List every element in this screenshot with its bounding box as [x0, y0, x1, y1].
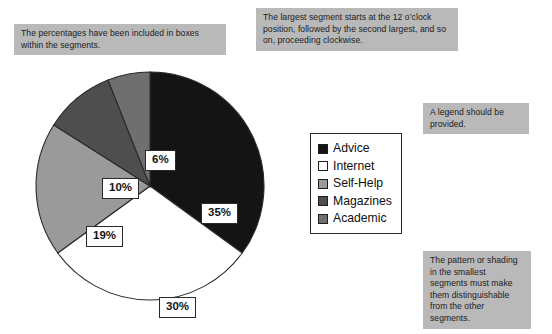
legend-item-advice: Advice: [318, 140, 396, 158]
slice-label-advice: 35%: [201, 203, 238, 224]
callout-shading-contrast: The pattern or shading in the smallest s…: [423, 251, 531, 329]
slice-label-internet: 30%: [159, 297, 196, 318]
callout-legend-required: A legend should be provided.: [423, 103, 529, 134]
legend-item-label: Self-Help: [333, 177, 383, 190]
legend-item-self-help: Self-Help: [318, 175, 396, 193]
pie-chart: 35% 30% 19% 10% 6%: [30, 66, 274, 310]
legend-item-magazines: Magazines: [318, 193, 396, 211]
legend-item-academic: Academic: [318, 210, 396, 228]
legend-swatch-icon: [318, 161, 328, 171]
pie-center-dot: [148, 184, 151, 187]
slice-label-academic: 6%: [145, 150, 176, 171]
callout-percentages: The percentages have been included in bo…: [14, 24, 226, 55]
slice-label-self-help: 19%: [86, 226, 123, 247]
legend-swatch-icon: [318, 179, 328, 189]
annotated-pie-chart-figure: The percentages have been included in bo…: [0, 0, 552, 334]
legend-swatch-icon: [318, 214, 328, 224]
legend-item-label: Magazines: [333, 195, 392, 208]
callout-segment-order: The largest segment starts at the 12 o’c…: [256, 8, 458, 51]
pie-chart-svg: [30, 66, 274, 310]
legend-swatch-icon: [318, 196, 328, 206]
legend-item-label: Academic: [333, 212, 387, 225]
legend-item-label: Internet: [333, 160, 374, 173]
slice-label-magazines: 10%: [102, 178, 139, 199]
legend-item-internet: Internet: [318, 158, 396, 176]
legend-swatch-icon: [318, 144, 328, 154]
chart-legend: AdviceInternetSelf-HelpMagazinesAcademic: [310, 133, 402, 234]
legend-item-label: Advice: [333, 142, 370, 155]
